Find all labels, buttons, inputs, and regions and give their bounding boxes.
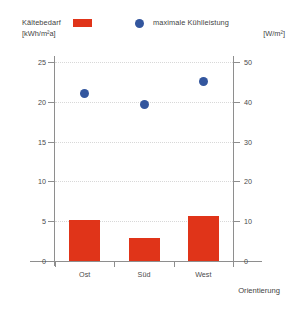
x-axis-tick [114, 261, 115, 267]
x-axis-tick [174, 261, 175, 267]
x-axis-tick [233, 261, 234, 267]
legend-unit-kaeltebedarf: [kWh/m²a] [22, 28, 142, 39]
left-axis-tick-label: 5 [16, 217, 46, 226]
legend-label-kuehlleistung: maximale Kühlleistung [153, 18, 229, 28]
left-axis-tick [48, 221, 54, 222]
right-axis-spine [233, 56, 234, 266]
left-axis-tick-label: 10 [16, 177, 46, 186]
category-label-ost: Ost [55, 270, 115, 279]
legend-label-kaeltebedarf: Kältebedarf [22, 18, 61, 28]
left-axis-tick-label: 20 [16, 98, 46, 107]
bar [129, 238, 160, 261]
x-axis-title: Orientierung [238, 286, 280, 295]
bar-swatch-icon [73, 19, 92, 27]
left-axis-tick [48, 62, 54, 63]
right-axis-tick [234, 181, 240, 182]
left-axis-tick-label: 15 [16, 138, 46, 147]
left-axis-tick [48, 102, 54, 103]
data-point [80, 89, 89, 98]
right-axis-tick-label: 30 [244, 138, 274, 147]
bar [69, 220, 100, 261]
category-label-west: West [173, 270, 233, 279]
legend-unit-kuehlleistung: [W/m²] [135, 28, 285, 39]
bottom-axis-spine [30, 261, 262, 262]
category-label-süd: Süd [114, 270, 174, 279]
bar [188, 216, 219, 261]
legend-entry-kaeltebedarf: Kältebedarf [kWh/m²a] [22, 18, 142, 39]
dot-swatch-icon [135, 19, 144, 28]
right-axis-tick-label: 40 [244, 98, 274, 107]
legend-entry-kuehlleistung: maximale Kühlleistung [W/m²] [135, 18, 285, 39]
right-axis-tick [234, 221, 240, 222]
left-axis-tick [48, 181, 54, 182]
right-axis-tick [234, 261, 240, 262]
data-point [140, 100, 149, 109]
right-axis-tick [234, 142, 240, 143]
data-point [199, 77, 208, 86]
right-axis-tick-label: 20 [244, 177, 274, 186]
plot-area [55, 62, 233, 261]
left-axis-tick [48, 142, 54, 143]
x-axis-tick [55, 261, 56, 267]
cooling-demand-chart: Kältebedarf [kWh/m²a] maximale Kühlleist… [0, 0, 293, 314]
right-axis-tick-label: 0 [244, 257, 274, 266]
right-axis-tick-label: 10 [244, 217, 274, 226]
right-axis-tick [234, 102, 240, 103]
right-axis-tick [234, 62, 240, 63]
left-axis-tick [48, 261, 54, 262]
right-axis-tick-label: 50 [244, 58, 274, 67]
chart-legend: Kältebedarf [kWh/m²a] maximale Kühlleist… [0, 0, 293, 50]
left-axis-tick-label: 25 [16, 58, 46, 67]
left-axis-tick-label: 0 [16, 257, 46, 266]
